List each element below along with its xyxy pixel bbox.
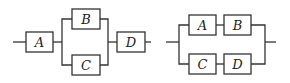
component-d-label: D	[125, 35, 137, 50]
right-parallel-junction	[100, 19, 108, 65]
diagram-canvas: A B C D A B C D	[0, 0, 290, 83]
component-b-label: B	[80, 12, 91, 27]
component-a-label: A	[197, 18, 207, 33]
component-c-label: C	[81, 58, 91, 73]
circuit-2: A B C D	[166, 15, 276, 74]
circuit-1: A B C D	[13, 9, 151, 75]
component-a-label: A	[34, 35, 44, 50]
left-parallel-junction	[179, 25, 189, 64]
component-b-label: B	[232, 18, 243, 33]
component-c-label: C	[198, 57, 208, 72]
right-parallel-junction	[251, 25, 265, 64]
left-parallel-junction	[62, 19, 72, 65]
component-d-label: D	[231, 57, 243, 72]
